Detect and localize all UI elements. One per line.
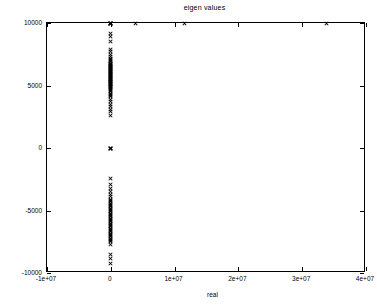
data-point-marker: [108, 64, 113, 69]
x-tick-mark: [47, 267, 48, 271]
x-tick-mark: [175, 267, 176, 271]
data-point-marker: [108, 182, 113, 187]
x-tick-mark: [111, 267, 112, 271]
data-point-marker: [108, 202, 113, 207]
data-point-marker: [108, 84, 113, 89]
data-point-marker: [108, 71, 113, 76]
data-point-marker: [108, 73, 113, 78]
x-tick-mark-top: [366, 23, 367, 27]
data-point-marker: [108, 192, 113, 197]
chart-title: eigen values: [0, 4, 377, 11]
data-point-marker: [108, 206, 113, 211]
x-tick-label: 3e+07: [292, 275, 310, 282]
data-point-marker: [108, 99, 113, 104]
y-tick-mark-right: [360, 273, 364, 274]
plot-area: [46, 22, 365, 272]
data-point-marker: [108, 79, 113, 84]
data-point-marker: [108, 31, 113, 36]
x-axis-label: real: [0, 291, 377, 298]
data-point-marker: [108, 109, 113, 114]
data-point-marker: [108, 204, 113, 209]
data-point-marker: [108, 93, 113, 98]
data-point-marker: [108, 81, 113, 86]
data-point-marker: [108, 39, 113, 44]
x-tick-mark-top: [175, 23, 176, 27]
data-point-marker: [108, 107, 113, 112]
data-point-marker: [108, 64, 113, 69]
data-point-marker: [108, 70, 113, 75]
data-point-marker: [108, 66, 113, 71]
data-point-marker: [108, 86, 113, 91]
y-tick-label: -10000: [2, 269, 42, 276]
data-point-marker: [108, 54, 113, 59]
data-point-marker: [108, 242, 113, 247]
y-tick-mark: [47, 86, 51, 87]
data-point-marker: [108, 76, 113, 81]
data-point-marker: [108, 76, 113, 81]
data-point-marker: [108, 228, 113, 233]
data-point-marker: [108, 92, 113, 97]
y-tick-mark-right: [360, 211, 364, 212]
data-point-marker: [108, 62, 113, 67]
x-tick-label: 2e+07: [228, 275, 246, 282]
y-tick-label: 0: [2, 144, 42, 151]
data-point-marker: [108, 59, 113, 64]
data-point-marker: [108, 219, 113, 224]
y-tick-mark-right: [360, 148, 364, 149]
data-point-marker: [108, 74, 113, 79]
y-tick-label: 5000: [2, 81, 42, 88]
x-tick-mark: [366, 267, 367, 271]
data-point-marker: [108, 88, 113, 93]
data-point-marker: [108, 72, 113, 77]
x-tick-mark: [238, 267, 239, 271]
data-point-marker: [108, 56, 113, 61]
data-point-marker: [108, 176, 113, 181]
data-point-marker: [108, 69, 113, 74]
data-point-marker: [108, 84, 113, 89]
data-point-marker: [108, 222, 113, 227]
data-point-marker: [108, 186, 113, 191]
x-tick-label: 0: [108, 275, 112, 282]
data-point-marker: [108, 233, 113, 238]
data-point-marker: [108, 199, 113, 204]
data-point-marker: [108, 238, 113, 243]
data-point-marker: [108, 83, 113, 88]
data-point-marker: [108, 201, 113, 206]
data-point-marker: [108, 209, 113, 214]
data-point-marker: [108, 82, 113, 87]
data-point-marker: [108, 102, 113, 107]
data-point-marker: [108, 226, 113, 231]
data-point-marker: [133, 21, 138, 26]
data-point-marker: [108, 57, 113, 62]
data-point-marker: [108, 34, 113, 39]
data-point-marker: [108, 146, 113, 151]
data-point-marker: [108, 213, 113, 218]
data-point-marker: [108, 85, 113, 90]
data-point-marker: [108, 47, 113, 52]
data-point-marker: [108, 82, 113, 87]
y-tick-mark: [47, 273, 51, 274]
data-point-marker: [108, 252, 113, 257]
data-point-marker: [108, 78, 113, 83]
data-point-marker: [108, 61, 113, 66]
data-point-marker: [108, 194, 113, 199]
data-point-marker: [108, 69, 113, 74]
data-point-marker: [108, 113, 113, 118]
data-point-marker: [108, 197, 113, 202]
y-tick-mark-right: [360, 86, 364, 87]
data-point-marker: [108, 214, 113, 219]
data-point-marker: [108, 146, 113, 151]
data-point-marker: [324, 21, 329, 26]
y-tick-mark: [47, 211, 51, 212]
x-tick-label: 1e+07: [164, 275, 182, 282]
x-tick-label: -1e+07: [36, 275, 56, 282]
data-point-marker: [108, 224, 113, 229]
data-point-marker: [108, 218, 113, 223]
figure-canvas: eigen values -1e+0701e+072e+073e+074e+07…: [0, 0, 377, 306]
data-point-marker: [108, 62, 113, 67]
data-point-marker: [108, 208, 113, 213]
data-point-marker: [108, 67, 113, 72]
data-point-marker: [108, 211, 113, 216]
data-point-marker: [108, 231, 113, 236]
x-tick-mark-top: [302, 23, 303, 27]
